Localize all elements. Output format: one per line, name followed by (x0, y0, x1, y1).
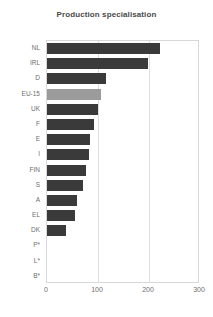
bar-row (47, 41, 198, 56)
x-tick-label: 100 (91, 286, 103, 293)
bars-group (47, 41, 198, 282)
bar-row (47, 163, 198, 178)
bar-dk (47, 225, 66, 236)
y-tick-label: NL (0, 40, 43, 55)
bar-fin (47, 165, 86, 176)
bar-row (47, 102, 198, 117)
bar-row (47, 269, 198, 284)
bar-chart: Production specialisation NLIRLDEU-15UKF… (0, 0, 213, 317)
y-tick-label: L* (0, 253, 43, 268)
bar-eu-15 (47, 89, 101, 100)
y-tick-label: P* (0, 237, 43, 252)
bar-s (47, 180, 83, 191)
y-tick-label: UK (0, 101, 43, 116)
y-tick-label: EU-15 (0, 86, 43, 101)
bar-nl (47, 43, 160, 54)
bar-el (47, 210, 75, 221)
x-tick-label: 0 (44, 286, 48, 293)
bar-irl (47, 58, 148, 69)
chart-title: Production specialisation (0, 10, 213, 19)
x-tick-label: 200 (142, 286, 154, 293)
y-tick-label: A (0, 192, 43, 207)
bar-row (47, 208, 198, 223)
bar-row (47, 238, 198, 253)
bar-row (47, 87, 198, 102)
bar-row (47, 71, 198, 86)
plot-area (46, 40, 199, 283)
bar-row (47, 254, 198, 269)
bar-d (47, 73, 106, 84)
y-tick-label: IRL (0, 55, 43, 70)
y-tick-label: D (0, 70, 43, 85)
x-tick-label: 300 (193, 286, 205, 293)
y-tick-label: FIN (0, 162, 43, 177)
bar-row (47, 56, 198, 71)
y-tick-label: B* (0, 268, 43, 283)
bar-row (47, 178, 198, 193)
bar-i (47, 149, 89, 160)
y-tick-label: I (0, 146, 43, 161)
bar-uk (47, 104, 98, 115)
bar-row (47, 117, 198, 132)
bar-row (47, 147, 198, 162)
y-axis-labels: NLIRLDEU-15UKFEIFINSAELDKP*L*B* (0, 40, 43, 283)
bar-e (47, 134, 90, 145)
y-tick-label: E (0, 131, 43, 146)
x-axis-labels: 0100200300 (0, 286, 213, 300)
y-tick-label: DK (0, 222, 43, 237)
bar-f (47, 119, 94, 130)
y-tick-label: EL (0, 207, 43, 222)
bar-row (47, 132, 198, 147)
y-tick-label: F (0, 116, 43, 131)
bar-a (47, 195, 77, 206)
bar-row (47, 223, 198, 238)
bar-row (47, 193, 198, 208)
y-tick-label: S (0, 177, 43, 192)
